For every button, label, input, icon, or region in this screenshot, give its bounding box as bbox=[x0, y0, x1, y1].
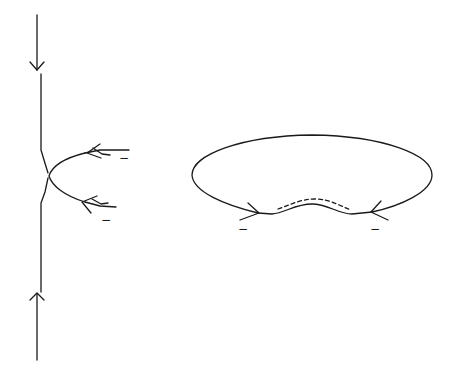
lower-minus-label: − bbox=[101, 213, 111, 227]
upper-minus-label: − bbox=[119, 151, 129, 165]
loop-curve bbox=[192, 135, 432, 213]
main-vertical-upper bbox=[41, 74, 48, 173]
left-figure: − − bbox=[30, 15, 129, 360]
right-bottom-minus-label: − bbox=[370, 222, 380, 236]
diagram-canvas: − − − − bbox=[0, 0, 453, 373]
lower-arrow-tail bbox=[92, 199, 108, 204]
main-vertical-lower bbox=[41, 178, 48, 292]
left-bottom-arrow-icon bbox=[240, 203, 259, 220]
lower-arrow-line bbox=[85, 202, 116, 207]
right-figure: − − bbox=[192, 135, 432, 236]
branch-curve bbox=[49, 153, 85, 202]
wavy-bottom-curve bbox=[258, 204, 372, 214]
left-bottom-minus-label: − bbox=[238, 222, 248, 236]
